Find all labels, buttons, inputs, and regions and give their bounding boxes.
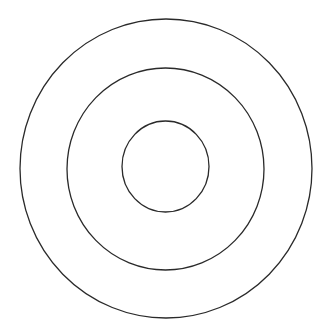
concentric-circles-diagram — [0, 0, 327, 335]
circles-svg — [0, 0, 327, 335]
outer-circle — [20, 19, 312, 318]
inner-circle — [122, 121, 209, 212]
middle-circle — [67, 68, 264, 270]
